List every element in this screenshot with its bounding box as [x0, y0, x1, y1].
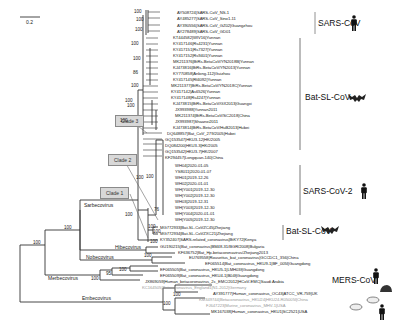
leaf-label: KT444582|WIV16|Yunnan	[173, 35, 220, 40]
leaf-label: EF065514|Bat_coronavirus_HKU9-1|BF_005I|…	[205, 261, 310, 266]
leaf-label: KJ473815|BtRs-BetaCoV/GX2013|Guangxi	[173, 101, 252, 106]
clade-2-box: Clade 2	[108, 154, 137, 166]
leaf-label: KJ473814|BtRs-BetaCoV/HuB2013|Hubei	[173, 125, 249, 130]
leaf-label: KY417146|Rs4231|Yunnan	[173, 41, 222, 46]
leaf-label: WH|Y002|2019-12-30	[175, 193, 214, 198]
bootstrap-value: 100	[173, 292, 181, 297]
leaf-label: GQ153547|HKU3-12|HK/2005	[165, 137, 220, 142]
leaf-label: KY417145|Rf4092|Yunnan	[173, 77, 221, 82]
bootstrap-value: 86	[133, 70, 138, 75]
leaf-label: WH|Y003|2019-12-30	[175, 205, 214, 210]
bootstrap-value: 100	[163, 301, 171, 306]
human-icon	[350, 15, 358, 31]
rodent-icon	[349, 303, 363, 311]
leaf-label: MK167038|Human_coronavirus_HKU1|SC2521|U…	[211, 309, 307, 314]
bootstrap-value: 100	[64, 225, 72, 230]
leaf-label: AY391777|Human_coronavirus_OC43|ATCC_VR-…	[213, 291, 317, 296]
bootstrap-value: 100	[125, 212, 133, 217]
hedgehog-icon	[379, 284, 393, 293]
leaf-label: WH04|2020-01-05	[175, 163, 208, 168]
leaf-label: AY508724|SARS-CoV_NS-1	[177, 10, 229, 15]
bootstrap-value: 100	[135, 27, 143, 32]
bootstrap-value: 100	[127, 103, 135, 108]
rodent-icon	[366, 296, 380, 304]
bootstrap-value: 100	[136, 175, 144, 180]
leaf-label: AY390556|SARS-CoV_GZ02|Guangzhou	[177, 23, 252, 28]
leaf-label: DQ648857|Bat_CoV_279/2005|Hubei	[167, 131, 235, 136]
leaf-label: KF294457|Longquan-140|China	[165, 155, 223, 160]
leaf-label: JX993987|Shaanxi2011	[175, 119, 218, 124]
subgenus-embecovirus: Embecovirus	[82, 295, 111, 301]
leaf-label: KC164505|Betacoronavirus_England1|N1-201…	[142, 285, 246, 290]
leaf-label: WH|Y001|2019-12-30	[175, 187, 214, 192]
leaf-label: YS8011|2020-01-07	[175, 169, 211, 174]
leaf-label: KY352407|SARS-related_coronavirus|BtKY72…	[160, 237, 256, 242]
subgenus-nobecovirus: Nobecovirus	[86, 254, 114, 260]
bootstrap-value: 100	[136, 17, 144, 22]
bat-icon	[320, 224, 340, 236]
leaf-label: KJ473816|BtRs-BetaCoV/YN2013|Yunnan	[173, 65, 250, 70]
scale-bar-label: 0.2	[26, 19, 33, 25]
bootstrap-value: 100	[134, 9, 142, 14]
bootstrap-value: 100	[131, 83, 139, 88]
leaf-label: GU190215|Bat_coronavirus|BM48-31/BGR/200…	[160, 244, 264, 249]
subgenus-merbecovirus: Merbecovirus	[48, 275, 78, 281]
leaf-label: DQ084200|HKU3-3|HK/2005	[165, 143, 217, 148]
leaf-label: JX993988|Yunnan2011	[175, 107, 217, 112]
leaf-label: MK211374|BtRs-BetaCoV/SC2018|China	[175, 113, 250, 118]
leaf-label: WH|Y005|2019-12-30	[175, 217, 214, 222]
human-icon	[360, 183, 368, 199]
leaf-label: MK211377|BtRs-BetaCoV/YN2018C|Yunnan	[171, 83, 252, 88]
leaf-label: EU769558|Rousettus_bat_coronavirus|GCCDC…	[189, 255, 298, 260]
leaf-label: MK211376|BtRs-BetaCoV/YN2018B|Yunnan	[173, 59, 254, 64]
leaf-label: KY417142|As6526|Yunnan	[171, 89, 220, 94]
bootstrap-value: 100	[91, 276, 99, 281]
leaf-label: WH03|2019-12-31	[175, 199, 208, 204]
bootstrap-value: 95	[106, 271, 111, 276]
leaf-label: GQ153542|HKU3-7|HK/2007	[165, 149, 218, 154]
leaf-label: AY278489|SARS-CoV_GD01	[177, 29, 230, 34]
human-icon	[378, 304, 386, 320]
subgenus-sarbecovirus: Sarbecovirus	[84, 202, 113, 208]
group-label-bat-sl-cov: Bat-SL-CoV	[305, 92, 350, 102]
bootstrap-value: 100	[131, 41, 139, 46]
group-label-sars-cov-2: SARS-CoV-2	[303, 186, 353, 196]
leaf-label: MG772933|Bat-SL-CoVZC45|Zhejiang	[160, 225, 230, 230]
subgenus-hibecovirus: Hibecovirus	[115, 244, 141, 250]
bootstrap-value: 100	[150, 239, 158, 244]
leaf-label: KY417152|Rs9401|Yunnan	[173, 53, 222, 58]
leaf-label: EF065509|Bat_coronavirus_HKU4-1|B04f|Gua…	[160, 273, 258, 278]
leaf-label: FJ647223|Murine_coronavirus_MHV-1|USA	[206, 303, 285, 308]
leaf-label: EF065505|Bat_coronavirus_HKU5-1|LMH03f|G…	[160, 267, 264, 272]
leaf-label: JX869059|Human_betacoronavirus_2c_EMC/20…	[145, 279, 284, 284]
leaf-label: WH|Y004|2020-01-01	[175, 211, 214, 216]
bootstrap-value: 76	[154, 207, 159, 212]
bat-icon	[347, 92, 367, 104]
human-icon	[372, 268, 380, 284]
leaf-label: KY770858|Anlong-112|Guizhou	[173, 71, 230, 76]
bootstrap-value: 100	[120, 118, 128, 123]
leaf-label: WH02|2020-01-01	[175, 181, 208, 186]
clade-1-box: Clade 1	[100, 187, 129, 199]
leaf-label: WH01|2019-12-26	[175, 175, 208, 180]
bootstrap-value: 100	[133, 56, 141, 61]
group-label-mers-cov: MERS-CoV	[332, 275, 376, 285]
bootstrap-value: 100	[119, 267, 127, 272]
bootstrap-value: 100	[33, 240, 41, 245]
leaf-label: KM349744|Betacoronavirus_HKU24|HKU24-R05…	[199, 297, 308, 302]
leaf-label: KY417148|Rs4247|Yunnan	[171, 95, 220, 100]
leaf-label: AY485277|SARS-CoV_Sino1-11	[177, 16, 236, 21]
leaf-label: KY417151|Rs7327|Yunnan	[173, 47, 222, 52]
bootstrap-value: 100	[146, 174, 154, 179]
leaf-label: MG772934|Bat-SL-CoVZXC21|Zhejiang	[160, 231, 233, 236]
bootstrap-value: 100	[144, 253, 152, 258]
